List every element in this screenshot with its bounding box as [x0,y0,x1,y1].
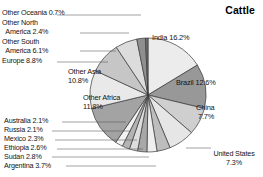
slice-label-europe: Europe 8.8% [2,57,42,66]
slice-label-united-states-line2: 7.3% [206,159,262,168]
slice-label-other-africa-line2: 11.8% [83,103,103,112]
slice-label-china-line2: 7.7% [198,113,214,122]
slice-label-india: India 16.2% [152,34,189,43]
slice-label-other-oceania: Other Oceania 0.7% [2,9,64,18]
slice-label-other-north-america-line2: America 2.4% [2,28,48,37]
slice-label-argentina: Argentina 3.7% [4,162,51,171]
slice-label-other-south-america-line2: America 6.1% [2,47,48,56]
slice-label-brazil: Brazil 12.6% [176,79,216,88]
slice-label-other-asia-line2: 10.8% [68,77,88,86]
chart-title: Cattle [225,4,255,16]
pie-chart-figure: India 16.2%Brazil 12.6%China 7.7%United … [0,0,263,177]
